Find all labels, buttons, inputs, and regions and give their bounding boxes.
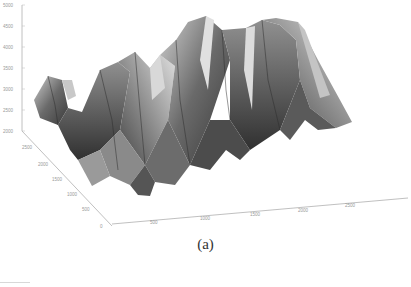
- x-axis: 500 1000 1500 2000 2500: [112, 198, 408, 225]
- x-tick: 1000: [200, 216, 211, 221]
- x-tick: 2500: [345, 203, 356, 208]
- y-tick: 1500: [52, 177, 63, 182]
- x-tick: 2000: [298, 208, 309, 213]
- z-tick-4000: 4000: [3, 45, 14, 50]
- y-tick: 500: [82, 207, 90, 212]
- x-tick: 1500: [250, 212, 261, 217]
- x-tick: 500: [150, 220, 158, 225]
- y-tick: 2500: [22, 145, 33, 150]
- y-tick: 0: [100, 224, 103, 229]
- figure-caption: (a): [0, 236, 411, 253]
- z-tick-4500: 4500: [3, 24, 14, 29]
- next-figure-edge: [0, 282, 30, 283]
- z-axis: 5000 4500 4000 3500 3000 2500 2000: [3, 3, 25, 134]
- z-tick-2000: 2000: [3, 129, 14, 134]
- z-tick-3000: 3000: [3, 87, 14, 92]
- z-tick-2500: 2500: [3, 108, 14, 113]
- z-tick-5000: 5000: [3, 3, 14, 8]
- terrain-surface: [34, 16, 352, 196]
- z-tick-3500: 3500: [3, 66, 14, 71]
- y-tick: 1000: [67, 192, 78, 197]
- y-tick: 2000: [38, 162, 49, 167]
